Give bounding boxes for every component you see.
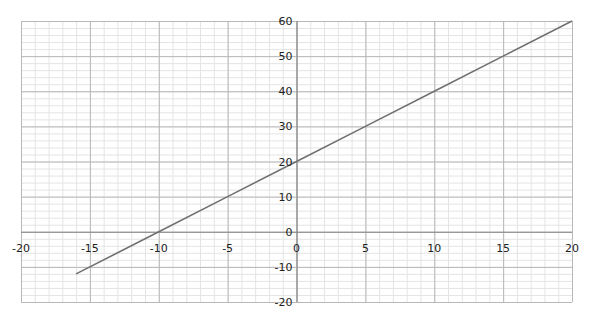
x-tick-label: -20 bbox=[12, 242, 30, 255]
line-chart: -20-15-10-505101520 -20-100102030405060 bbox=[0, 0, 594, 318]
x-tick-label: -15 bbox=[81, 242, 99, 255]
y-tick-label: 10 bbox=[279, 191, 293, 204]
y-tick-label: -10 bbox=[275, 261, 293, 274]
x-tick-label: -5 bbox=[222, 242, 233, 255]
y-tick-label: -20 bbox=[275, 296, 293, 309]
y-tick-label: 0 bbox=[286, 226, 293, 239]
x-tick-label: 20 bbox=[565, 242, 579, 255]
x-tick-label: 10 bbox=[427, 242, 441, 255]
x-tick-label: 15 bbox=[496, 242, 510, 255]
y-tick-label: 40 bbox=[279, 85, 293, 98]
x-tick-label: 0 bbox=[293, 242, 300, 255]
y-tick-label: 30 bbox=[279, 120, 293, 133]
y-tick-label: 60 bbox=[279, 15, 293, 28]
y-tick-label: 20 bbox=[279, 156, 293, 169]
x-axis-tick-labels: -20-15-10-505101520 bbox=[12, 242, 579, 255]
x-tick-label: 5 bbox=[362, 242, 369, 255]
y-tick-label: 50 bbox=[279, 50, 293, 63]
x-tick-label: -10 bbox=[150, 242, 168, 255]
